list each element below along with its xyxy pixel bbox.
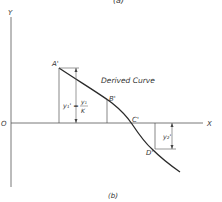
- curve-label: Derived Curve: [101, 76, 155, 85]
- arrowhead-down-icon: [171, 145, 174, 149]
- top-caption: (a): [113, 0, 124, 5]
- point-b-label: B': [109, 95, 116, 103]
- dimension-left-lhs: y₁' =: [62, 102, 79, 110]
- dimension-left-den: K: [81, 107, 86, 114]
- arrowhead-up-icon: [75, 68, 78, 72]
- arrowhead-down-icon: [75, 119, 78, 123]
- dimension-right-label: y₂': [162, 133, 171, 141]
- x-axis-label: X: [206, 120, 212, 128]
- derived-curve-diagram: (a) Y X O y₁' = y₁ K y₂' A' B' C' D' Der…: [0, 0, 222, 202]
- origin-label: O: [1, 120, 7, 128]
- point-d-label: D': [146, 149, 153, 157]
- point-a-label: A': [51, 60, 59, 68]
- point-c-label: C': [132, 116, 139, 124]
- y-axis-label: Y: [8, 9, 13, 17]
- dimension-left-num: y₁: [80, 98, 88, 106]
- figure-caption: (b): [108, 192, 118, 200]
- arrowhead-up-icon: [171, 123, 174, 127]
